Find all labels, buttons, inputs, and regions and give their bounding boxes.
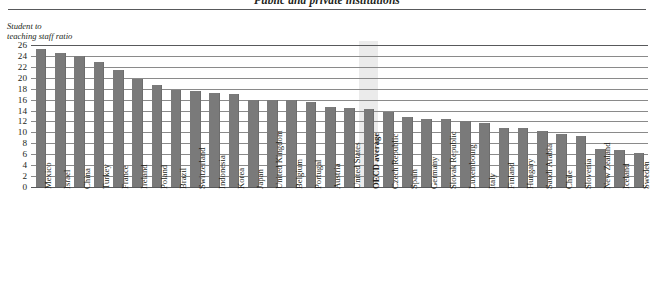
y-axis-caption: Student to teaching staff ratio (7, 22, 72, 41)
y-tick-label: 18 (18, 84, 27, 94)
x-axis-label: Switzerland (198, 148, 207, 190)
x-axis-label: Sweden (642, 161, 651, 189)
y-tick-label: 22 (18, 62, 27, 72)
x-axis-label: Mexico (44, 162, 53, 189)
x-axis-label: Poland (160, 165, 169, 189)
x-axis-label: Spain (410, 169, 419, 189)
bar (55, 53, 66, 187)
x-axis-label: China (83, 168, 92, 189)
y-tick-label: 26 (18, 40, 27, 50)
x-axis-label: Czech Republic (391, 134, 400, 189)
y-tick-label: 24 (18, 51, 27, 61)
y-tick-label: 10 (18, 127, 27, 137)
x-axis-label: Slovenia (584, 159, 593, 189)
x-axis-label: Finland (507, 162, 516, 189)
y-tick-label: 16 (18, 95, 27, 105)
x-axis-label: Iceland (622, 163, 631, 189)
x-axis-labels: MexicoIsraelChinaTurkeyFranceIrelandPola… (31, 189, 648, 285)
y-tick-label: 0 (22, 182, 27, 192)
y-tick-label: 12 (18, 116, 27, 126)
x-axis-label: France (121, 165, 130, 189)
x-axis-label: Slovak Republic (449, 131, 458, 189)
x-axis-label: Japan (256, 169, 265, 189)
x-axis-label: United Kingdom (275, 130, 284, 189)
y-tick-label: 6 (22, 149, 27, 159)
y-tick-label: 14 (18, 105, 27, 115)
x-axis-label: Indonesia (218, 155, 227, 189)
y-tick-label: 20 (18, 73, 27, 83)
x-axis-label: Belgium (295, 159, 304, 189)
page-title: Public and private institutions (0, 0, 654, 6)
x-axis-label: New Zealand (603, 142, 612, 189)
y-tick-label: 2 (22, 171, 27, 181)
x-axis-label: Chile (565, 170, 574, 189)
title-divider (8, 9, 646, 10)
x-axis-label: Austria (333, 163, 342, 189)
x-axis-label: Italy (488, 173, 497, 189)
x-axis-label: Germany (430, 157, 439, 189)
x-axis-label: United States (353, 142, 362, 189)
x-axis-label: Hungary (526, 159, 535, 189)
x-axis-label: Israel (63, 170, 72, 189)
x-axis-label: Saudi Arabia (545, 144, 554, 189)
x-axis-label: Turkey (102, 164, 111, 189)
x-axis-label: Portugal (314, 160, 323, 189)
x-axis-label: Brazil (179, 168, 188, 189)
chart-figure: Public and private institutions Student … (0, 0, 654, 290)
x-axis-label: Korea (237, 168, 246, 189)
y-tick-label: 8 (22, 138, 27, 148)
x-axis-label: Ireland (140, 164, 149, 189)
y-tick-label: 4 (22, 160, 27, 170)
x-axis-label: OECD average (372, 133, 381, 189)
x-axis-label: Luxembourg (468, 144, 477, 189)
